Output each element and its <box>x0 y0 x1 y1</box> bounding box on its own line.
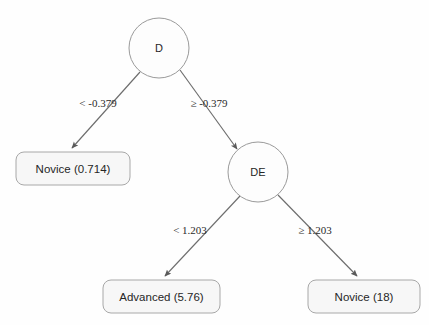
tree-canvas: < -0.379 ≥ -0.379 < 1.203 ≥ 1.203 D DE N… <box>0 0 429 325</box>
leaf-node-advanced-576-label: Advanced (5.76) <box>119 291 204 303</box>
decision-node-root-label: D <box>155 42 163 54</box>
leaf-node-novice-0714-label: Novice (0.714) <box>36 163 111 175</box>
decision-node-root[interactable]: D <box>129 18 189 78</box>
decision-node-de[interactable]: DE <box>228 142 288 202</box>
edge-root-to-novice0714 <box>72 72 140 148</box>
leaf-node-advanced-576[interactable]: Advanced (5.76) <box>103 280 220 313</box>
edge-label-de-left: < 1.203 <box>173 224 207 236</box>
edge-label-root-right: ≥ -0.379 <box>190 97 228 109</box>
leaf-node-novice-0714[interactable]: Novice (0.714) <box>16 152 130 185</box>
edge-label-de-right: ≥ 1.203 <box>298 224 332 236</box>
decision-tree-diagram: < -0.379 ≥ -0.379 < 1.203 ≥ 1.203 D DE N… <box>0 0 429 325</box>
edge-label-root-left: < -0.379 <box>79 97 117 109</box>
decision-node-de-label: DE <box>250 166 265 178</box>
edge-root-to-de <box>180 70 237 149</box>
edge-de-to-advanced576 <box>165 196 240 276</box>
leaf-node-novice-18-label: Novice (18) <box>335 291 394 303</box>
leaf-node-novice-18[interactable]: Novice (18) <box>308 280 420 313</box>
